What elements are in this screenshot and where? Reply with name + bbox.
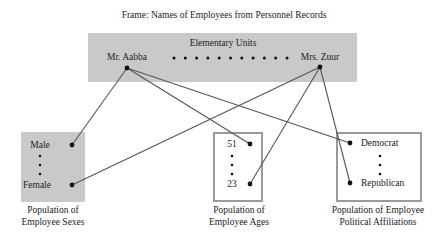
diagram-links-layer <box>0 0 447 236</box>
node-dot-mrs-zuur <box>318 65 323 70</box>
sexes-ellipsis-dot <box>39 164 42 167</box>
node-dot-male <box>70 143 75 148</box>
political-ellipsis-dot <box>379 173 382 176</box>
link-line <box>320 67 350 183</box>
link-line <box>127 68 250 144</box>
ages-ellipsis-dot <box>231 155 234 158</box>
link-line <box>250 67 320 184</box>
ellipsis-dot <box>206 57 209 60</box>
political-ellipsis-dot <box>379 155 382 158</box>
sexes-ellipsis-dot <box>39 173 42 176</box>
ellipsis-dot <box>274 57 277 60</box>
node-dot-democrat <box>348 141 353 146</box>
ellipsis-dot <box>184 57 187 60</box>
node-dot-51 <box>248 142 253 147</box>
node-dot-female <box>70 183 75 188</box>
ages-ellipsis-dot <box>231 173 234 176</box>
node-dot-mr-aabba <box>125 66 130 71</box>
ellipsis-dot <box>195 57 198 60</box>
ellipsis-dot <box>229 57 232 60</box>
population-ellipsis-dots <box>39 155 382 176</box>
ellipsis-dot <box>263 57 266 60</box>
node-dot-republican <box>348 181 353 186</box>
ellipsis-dot <box>252 57 255 60</box>
ellipsis-dot <box>173 57 176 60</box>
unit-ellipsis-dots <box>173 57 289 60</box>
ages-ellipsis-dot <box>231 164 234 167</box>
link-line <box>72 68 127 145</box>
sexes-ellipsis-dot <box>39 155 42 158</box>
ellipsis-dot <box>218 57 221 60</box>
link-line <box>72 67 320 185</box>
node-dot-23 <box>248 182 253 187</box>
ellipsis-dot <box>240 57 243 60</box>
links <box>72 67 350 185</box>
political-ellipsis-dot <box>379 164 382 167</box>
ellipsis-dot <box>286 57 289 60</box>
